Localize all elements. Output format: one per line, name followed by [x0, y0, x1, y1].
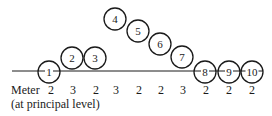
node-label: 1 — [46, 66, 52, 78]
syllable-node: 7 — [171, 46, 193, 68]
meter-value: 2 — [199, 83, 213, 97]
meter-value: 3 — [176, 83, 190, 97]
meter-label: Meter — [11, 83, 40, 97]
syllable-node: 10 — [241, 61, 263, 83]
syllable-node: 6 — [149, 33, 171, 55]
node-label: 8 — [202, 66, 208, 78]
node-group: 12345678910 — [38, 8, 263, 83]
meter-value: 2 — [245, 83, 259, 97]
node-label: 7 — [179, 51, 185, 63]
node-label: 6 — [157, 38, 163, 50]
syllable-node: 3 — [84, 47, 106, 69]
meter-value: 2 — [222, 83, 236, 97]
syllable-node: 4 — [104, 8, 126, 30]
syllable-node: 8 — [194, 61, 216, 83]
syllable-node: 2 — [61, 47, 83, 69]
meter-value: 3 — [109, 83, 123, 97]
meter-value: 3 — [66, 83, 80, 97]
node-label: 5 — [135, 25, 141, 37]
node-label: 4 — [112, 13, 118, 25]
meter-value: 2 — [154, 83, 168, 97]
node-label: 9 — [226, 66, 232, 78]
node-label: 3 — [92, 52, 98, 64]
meter-value: 2 — [44, 83, 58, 97]
syllable-node: 1 — [38, 61, 60, 83]
meter-value: 2 — [89, 83, 103, 97]
meter-sublabel: (at principal level) — [11, 97, 100, 111]
syllable-node: 5 — [127, 20, 149, 42]
node-label: 2 — [69, 52, 75, 64]
meter-value: 2 — [132, 83, 146, 97]
syllable-node: 9 — [218, 61, 240, 83]
node-label: 10 — [247, 66, 259, 78]
